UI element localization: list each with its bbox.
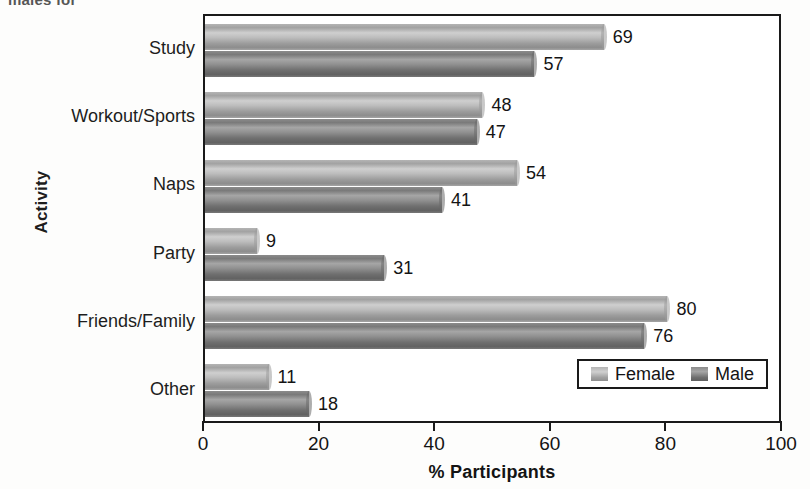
- bar-end-cap: [641, 323, 647, 349]
- bar-value-label: 57: [543, 53, 563, 74]
- bar-end-cap: [664, 296, 670, 322]
- x-axis-tick-mark: [780, 421, 782, 431]
- bar-end-cap: [531, 51, 537, 77]
- legend-item-female: Female: [591, 364, 675, 385]
- x-axis-tick-labels: 020406080100: [203, 433, 781, 459]
- x-axis-tick-mark: [664, 421, 666, 431]
- x-axis-title: % Participants: [203, 462, 781, 483]
- bar-value-label: 54: [526, 162, 546, 183]
- bar-end-cap: [514, 160, 520, 186]
- legend-swatch-female-icon: [591, 367, 608, 381]
- x-axis-tick-label: 60: [539, 433, 560, 455]
- x-axis-tick-label: 100: [765, 433, 797, 455]
- plot-area: 69574847544193180761118 Female Male: [203, 14, 781, 423]
- bar-male-workout-sports: [205, 119, 477, 145]
- bar-female-party: [205, 228, 257, 254]
- bar-male-naps: [205, 187, 442, 213]
- x-axis-tick-mark: [433, 421, 435, 431]
- bar-male-friends-family: [205, 323, 644, 349]
- y-axis-tick-label: Party: [40, 242, 195, 263]
- bar-value-label: 18: [318, 394, 338, 415]
- bar-value-label: 31: [393, 258, 413, 279]
- x-axis-tick-mark: [202, 421, 204, 431]
- legend-swatch-male-icon: [691, 367, 708, 381]
- x-axis-tick-label: 80: [655, 433, 676, 455]
- bar-male-party: [205, 255, 384, 281]
- bar-value-label: 80: [676, 299, 696, 320]
- bar-end-cap: [479, 92, 485, 118]
- bar-end-cap: [601, 24, 607, 50]
- bar-end-cap: [306, 391, 312, 417]
- y-axis-tick-label: Other: [40, 378, 195, 399]
- bar-male-study: [205, 51, 534, 77]
- bar-value-label: 69: [613, 26, 633, 47]
- y-axis-tick-labels: StudyWorkout/SportsNapsPartyFriends/Fami…: [40, 14, 195, 423]
- bar-female-study: [205, 24, 604, 50]
- bar-value-label: 76: [653, 326, 673, 347]
- y-axis-tick-label: Friends/Family: [40, 310, 195, 331]
- bar-female-friends-family: [205, 296, 667, 322]
- legend-label-male: Male: [715, 364, 754, 385]
- bar-female-workout-sports: [205, 92, 482, 118]
- top-caption-remnant: males for: [8, 0, 238, 5]
- bar-male-other: [205, 391, 309, 417]
- x-axis-tick-marks: [203, 421, 781, 433]
- x-axis-tick-label: 20: [308, 433, 329, 455]
- y-axis-tick-label: Workout/Sports: [40, 106, 195, 127]
- bar-end-cap: [266, 364, 272, 390]
- bar-value-label: 47: [486, 121, 506, 142]
- legend-label-female: Female: [615, 364, 675, 385]
- bar-end-cap: [474, 119, 480, 145]
- bar-end-cap: [381, 255, 387, 281]
- legend: Female Male: [577, 359, 768, 389]
- bar-end-cap: [254, 228, 260, 254]
- x-axis-tick-label: 0: [198, 433, 209, 455]
- x-axis-tick-mark: [549, 421, 551, 431]
- legend-item-male: Male: [691, 364, 754, 385]
- bar-value-label: 11: [278, 367, 297, 388]
- x-axis-tick-mark: [318, 421, 320, 431]
- bar-female-other: [205, 364, 269, 390]
- bar-value-label: 9: [266, 231, 276, 252]
- bar-female-naps: [205, 160, 517, 186]
- bar-value-label: 48: [491, 94, 511, 115]
- y-axis-tick-label: Study: [40, 38, 195, 59]
- bar-end-cap: [439, 187, 445, 213]
- chart-figure: males for Activity StudyWorkout/SportsNa…: [0, 0, 810, 489]
- y-axis-tick-label: Naps: [40, 174, 195, 195]
- x-axis-tick-label: 40: [424, 433, 445, 455]
- bar-value-label: 41: [451, 189, 471, 210]
